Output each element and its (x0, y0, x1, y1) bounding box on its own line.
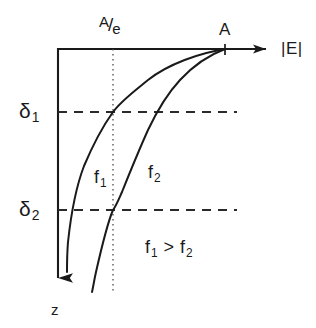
curve-f2-symbol: f (148, 162, 153, 182)
curve-f1-subscript: 1 (100, 176, 107, 190)
delta2-symbol: δ (19, 197, 31, 220)
curve-f1-label: f1 (94, 168, 107, 186)
skin-depth-diagram: A/e A |E| δ1 δ2 f1 f2 f1>f2 z (0, 0, 316, 328)
amplitude-over-e-denominator: e (112, 20, 120, 37)
inequality-operator: > (164, 237, 175, 257)
amplitude-over-e-label: A/e (99, 14, 123, 33)
delta1-symbol: δ (19, 99, 31, 122)
field-axis-label: |E| (281, 40, 303, 57)
delta2-label: δ2 (19, 198, 40, 219)
delta1-subscript: 1 (32, 109, 40, 125)
curve-f2-subscript: 2 (154, 171, 161, 185)
inequality-right-subscript: 2 (186, 246, 193, 260)
curve-f2-label: f2 (148, 163, 161, 181)
inequality-label: f1>f2 (145, 238, 193, 256)
delta1-label: δ1 (19, 100, 40, 121)
depth-axis-label: z (51, 302, 59, 317)
inequality-right-symbol: f (180, 237, 185, 257)
amplitude-point-label: A (219, 21, 230, 38)
curve-f1-symbol: f (94, 167, 99, 187)
inequality-left-symbol: f (145, 237, 150, 257)
delta2-subscript: 2 (32, 207, 40, 223)
inequality-left-subscript: 1 (151, 246, 158, 260)
